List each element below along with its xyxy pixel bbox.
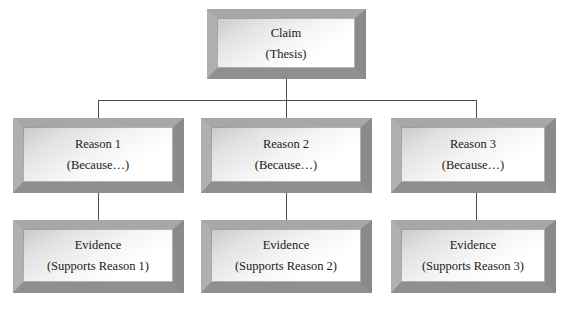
diagram-canvas: Claim (Thesis) Reason 1 (Because…) Reaso… <box>0 0 571 311</box>
node-claim[interactable]: Claim (Thesis) <box>207 9 366 79</box>
node-evidence-2[interactable]: Evidence (Supports Reason 2) <box>201 220 372 293</box>
evidence-1-subtitle: (Supports Reason 1) <box>47 258 149 274</box>
connector-reason2-to-evidence2 <box>286 192 287 220</box>
evidence-1-title: Evidence <box>75 237 122 253</box>
evidence-3-title: Evidence <box>450 237 497 253</box>
claim-title: Claim <box>271 25 302 41</box>
reason-3-subtitle: (Because…) <box>442 157 504 173</box>
evidence-2-title: Evidence <box>263 237 310 253</box>
node-evidence-3[interactable]: Evidence (Supports Reason 3) <box>391 220 556 293</box>
reason-1-title: Reason 1 <box>75 136 121 152</box>
connector-reason3-to-evidence3 <box>476 192 477 220</box>
connector-bus-to-reason2 <box>286 100 287 118</box>
node-evidence-1[interactable]: Evidence (Supports Reason 1) <box>13 220 184 293</box>
reason-1-subtitle: (Because…) <box>67 157 129 173</box>
connector-bus-to-reason3 <box>476 100 477 118</box>
reason-3-title: Reason 3 <box>450 136 496 152</box>
evidence-3-subtitle: (Supports Reason 3) <box>422 258 524 274</box>
claim-subtitle: (Thesis) <box>266 46 307 62</box>
node-reason-2[interactable]: Reason 2 (Because…) <box>201 118 372 193</box>
reason-2-title: Reason 2 <box>263 136 309 152</box>
connector-reason1-to-evidence1 <box>98 192 99 220</box>
reason-2-subtitle: (Because…) <box>255 157 317 173</box>
connector-bus-horizontal <box>98 100 477 101</box>
node-reason-1[interactable]: Reason 1 (Because…) <box>13 118 184 193</box>
connector-bus-to-reason1 <box>98 100 99 118</box>
node-reason-3[interactable]: Reason 3 (Because…) <box>391 118 556 193</box>
evidence-2-subtitle: (Supports Reason 2) <box>235 258 337 274</box>
connector-claim-to-bus <box>286 78 287 101</box>
